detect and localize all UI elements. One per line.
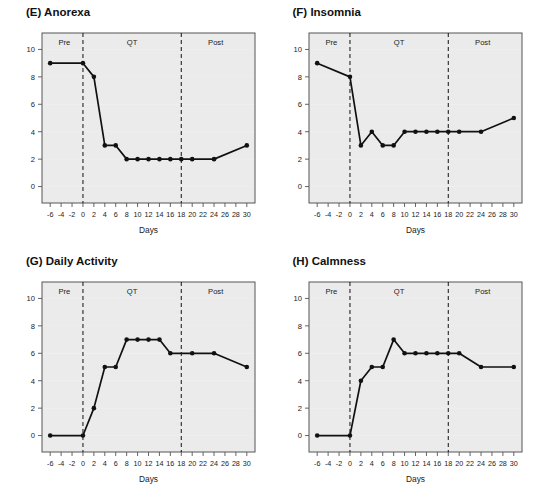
x-tick-label: 28 xyxy=(232,459,240,468)
x-tick-label: 14 xyxy=(422,210,430,219)
region-label: Pre xyxy=(325,38,337,47)
x-tick-label: -6 xyxy=(47,210,53,219)
x-tick-label: 4 xyxy=(103,210,107,219)
data-point-marker xyxy=(124,157,129,162)
y-tick-label: 0 xyxy=(297,182,301,191)
x-axis-title: Days xyxy=(405,474,424,484)
panel-title-F: (F) Insomnia xyxy=(293,6,361,18)
data-point-marker xyxy=(168,157,173,162)
y-tick-label: 4 xyxy=(31,128,35,137)
x-tick-label: 16 xyxy=(166,210,174,219)
x-tick-label: -4 xyxy=(58,459,64,468)
region-label: Post xyxy=(475,287,491,296)
y-tick-label: 4 xyxy=(31,377,35,386)
x-tick-label: 22 xyxy=(199,210,207,219)
data-point-marker xyxy=(190,157,195,162)
data-point-marker xyxy=(380,365,385,370)
data-point-marker xyxy=(445,351,450,356)
x-tick-label: 6 xyxy=(380,210,384,219)
x-tick-label: -2 xyxy=(335,459,341,468)
y-tick-label: 0 xyxy=(31,431,35,440)
region-label: Pre xyxy=(58,287,70,296)
x-tick-label: 8 xyxy=(125,210,129,219)
data-point-marker xyxy=(413,129,418,134)
data-point-marker xyxy=(157,337,162,342)
data-point-marker xyxy=(391,143,396,148)
data-point-marker xyxy=(48,61,53,66)
x-tick-label: 20 xyxy=(188,210,196,219)
region-label: Post xyxy=(475,38,491,47)
x-tick-label: 4 xyxy=(369,210,373,219)
data-point-marker xyxy=(124,337,129,342)
x-tick-label: -2 xyxy=(335,210,341,219)
panel-title-H: (H) Calmness xyxy=(293,255,367,267)
x-tick-label: 4 xyxy=(103,459,107,468)
x-tick-label: 24 xyxy=(210,210,218,219)
x-tick-label: 4 xyxy=(369,459,373,468)
y-tick-label: 10 xyxy=(293,294,301,303)
x-tick-label: 20 xyxy=(455,210,463,219)
data-point-marker xyxy=(48,433,53,438)
x-tick-label: 20 xyxy=(455,459,463,468)
x-tick-label: 16 xyxy=(433,459,441,468)
x-tick-label: 12 xyxy=(411,459,419,468)
x-tick-label: 0 xyxy=(81,210,85,219)
data-point-marker xyxy=(113,143,118,148)
x-tick-label: -6 xyxy=(47,459,53,468)
data-point-marker xyxy=(369,365,374,370)
data-point-marker xyxy=(511,116,516,121)
data-point-marker xyxy=(369,129,374,134)
x-tick-label: 18 xyxy=(177,210,185,219)
x-tick-label: 30 xyxy=(509,210,517,219)
y-tick-label: 6 xyxy=(31,349,35,358)
region-label: Pre xyxy=(325,287,337,296)
x-tick-label: -6 xyxy=(313,459,319,468)
data-point-marker xyxy=(424,129,429,134)
data-point-marker xyxy=(81,61,86,66)
region-label: Pre xyxy=(58,38,70,47)
y-tick-label: 4 xyxy=(297,377,301,386)
data-point-marker xyxy=(358,378,363,383)
data-point-marker xyxy=(511,365,516,370)
x-tick-label: 12 xyxy=(145,459,153,468)
data-point-marker xyxy=(347,75,352,80)
x-tick-label: 26 xyxy=(221,210,229,219)
x-tick-label: 24 xyxy=(210,459,218,468)
y-tick-label: 2 xyxy=(297,155,301,164)
x-tick-label: 0 xyxy=(81,459,85,468)
x-tick-label: 28 xyxy=(498,459,506,468)
data-point-marker xyxy=(81,433,86,438)
x-tick-label: 14 xyxy=(422,459,430,468)
data-point-marker xyxy=(113,365,118,370)
region-label: Post xyxy=(208,38,224,47)
plot-frame xyxy=(42,33,255,203)
y-tick-label: 8 xyxy=(31,322,35,331)
y-tick-label: 6 xyxy=(297,349,301,358)
x-tick-label: 8 xyxy=(125,459,129,468)
x-tick-label: 24 xyxy=(477,210,485,219)
x-tick-label: -4 xyxy=(324,459,330,468)
data-point-marker xyxy=(456,129,461,134)
data-point-marker xyxy=(92,406,97,411)
x-tick-label: 26 xyxy=(221,459,229,468)
panel-title-E: (E) Anorexa xyxy=(26,6,90,18)
y-tick-label: 2 xyxy=(31,155,35,164)
x-tick-label: 12 xyxy=(411,210,419,219)
data-point-marker xyxy=(402,351,407,356)
x-tick-label: 26 xyxy=(487,459,495,468)
data-point-marker xyxy=(135,157,140,162)
region-label: QT xyxy=(127,287,138,296)
x-tick-label: 28 xyxy=(498,210,506,219)
data-point-marker xyxy=(103,143,108,148)
x-tick-label: 10 xyxy=(134,459,142,468)
region-label: QT xyxy=(393,38,404,47)
x-tick-label: 14 xyxy=(155,210,163,219)
y-tick-label: 2 xyxy=(31,404,35,413)
x-tick-label: 30 xyxy=(243,459,251,468)
panel-title-G: (G) Daily Activity xyxy=(26,255,118,267)
x-tick-label: -6 xyxy=(313,210,319,219)
panel-F: (F) Insomnia 0246810-6-4-202468101214161… xyxy=(267,0,533,249)
x-tick-label: -2 xyxy=(69,459,75,468)
data-point-marker xyxy=(245,143,250,148)
data-point-marker xyxy=(435,129,440,134)
